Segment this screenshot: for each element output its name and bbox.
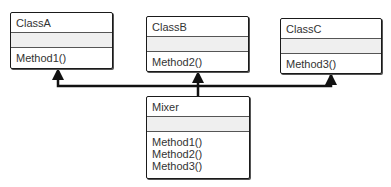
- arrowhead-classA-icon: [52, 68, 64, 80]
- arrowhead-classC-icon: [325, 73, 337, 85]
- class-methods: Method1() Method2() Method3(): [147, 132, 249, 172]
- class-name: Mixer: [147, 97, 249, 117]
- class-name: ClassB: [147, 17, 248, 37]
- method: Method1(): [16, 52, 107, 64]
- class-attributes: [281, 39, 381, 54]
- class-attributes: [147, 37, 248, 52]
- class-methods: Method2(): [147, 52, 248, 68]
- class-box-mixer[interactable]: Mixer Method1() Method2() Method3(): [146, 96, 250, 179]
- class-name: ClassC: [281, 19, 381, 39]
- class-methods: Method3(): [281, 54, 381, 70]
- class-box-classC[interactable]: ClassC Method3(): [280, 18, 382, 74]
- class-attributes: [11, 33, 112, 48]
- method: Method2(): [152, 56, 243, 68]
- method: Method3(): [152, 160, 244, 172]
- method: Method2(): [152, 148, 244, 160]
- class-box-classB[interactable]: ClassB Method2(): [146, 16, 249, 72]
- class-name: ClassA: [11, 13, 112, 33]
- class-methods: Method1(): [11, 48, 112, 64]
- method: Method1(): [152, 136, 244, 148]
- method: Method3(): [286, 58, 376, 70]
- class-box-classA[interactable]: ClassA Method1(): [10, 12, 113, 69]
- arrowhead-classB-icon: [192, 71, 204, 83]
- class-attributes: [147, 117, 249, 132]
